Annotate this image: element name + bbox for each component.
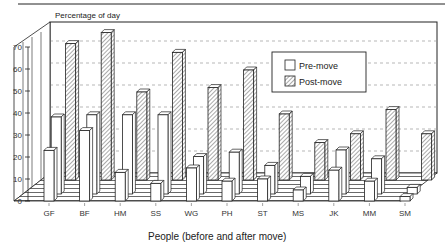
pre-move-bar	[186, 168, 196, 201]
post-move-bar	[208, 88, 218, 180]
pre-move-bar	[258, 179, 268, 201]
y-tick-label: 20	[13, 153, 22, 162]
legend-post-move-label: Post-move	[299, 77, 342, 87]
post-move-bar	[315, 143, 325, 180]
post-move-bar	[101, 33, 111, 180]
pre-move-bar	[151, 183, 161, 201]
x-tick-label: MM	[363, 209, 377, 218]
y-tick-label: 30	[13, 131, 22, 140]
x-tick-label: JK	[329, 209, 339, 218]
post-move-bar	[244, 70, 254, 180]
y-axis-title: Percentage of day	[55, 11, 120, 20]
legend-pre-move-swatch	[285, 60, 295, 70]
x-tick-label: MS	[292, 209, 304, 218]
pre-move-bar	[222, 181, 232, 201]
x-tick-label: SS	[150, 209, 161, 218]
x-tick-label: WG	[185, 209, 199, 218]
post-move-bar	[137, 92, 147, 180]
post-move-bar	[279, 114, 289, 180]
post-move-bar	[422, 134, 432, 180]
legend: Pre-movePost-move	[272, 52, 366, 92]
x-tick-label: GF	[43, 209, 54, 218]
pre-move-bar	[115, 172, 125, 201]
x-tick-label: HM	[114, 209, 127, 218]
pre-move-bar	[329, 170, 339, 201]
post-move-bar	[66, 44, 76, 180]
legend-post-move-swatch	[285, 76, 295, 86]
pre-move-bar	[364, 181, 374, 201]
post-move-bar	[386, 110, 396, 180]
x-tick-label: ST	[257, 209, 267, 218]
post-move-bar	[172, 52, 182, 180]
pre-move-rear-bar	[407, 187, 417, 194]
pre-move-bar	[293, 190, 303, 201]
pre-move-bar	[400, 197, 410, 201]
x-tick-label: BF	[79, 209, 89, 218]
legend-pre-move-label: Pre-move	[299, 61, 338, 71]
bar-chart-3d: 010203040506070Percentage of dayGFBFHMSS…	[0, 0, 445, 252]
pre-move-bar	[44, 150, 54, 201]
y-tick-label: 50	[13, 87, 22, 96]
pre-move-bar	[80, 131, 90, 201]
y-tick-label: 40	[13, 109, 22, 118]
y-tick-label: 0	[18, 197, 23, 206]
x-axis-title: People (before and after move)	[148, 231, 286, 242]
y-tick-label: 60	[13, 65, 22, 74]
y-tick-label: 70	[13, 43, 22, 52]
x-tick-label: SM	[399, 209, 411, 218]
y-tick-label: 10	[13, 175, 22, 184]
x-tick-label: PH	[221, 209, 232, 218]
post-move-bar	[350, 134, 360, 180]
